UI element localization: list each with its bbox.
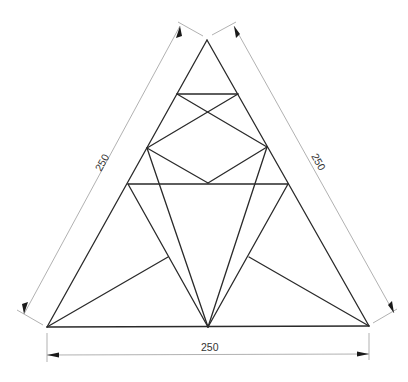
dimension-label: 250 <box>309 151 328 172</box>
dimension-bottom: 250 <box>47 333 369 362</box>
extension-line <box>212 22 236 35</box>
arrow-head-icon <box>388 301 394 313</box>
line-q-to-m <box>128 184 208 327</box>
perp-right <box>249 257 369 326</box>
extension-line <box>17 310 43 325</box>
dimension-right: 250 <box>212 22 397 323</box>
triangle-drawing: 250 250 250 <box>0 0 408 382</box>
dimension-left: 250 <box>17 22 203 325</box>
interior-lines <box>47 94 369 327</box>
diamond-right-lower <box>208 147 267 183</box>
extension-line <box>178 22 203 36</box>
arrow-head-icon <box>47 353 59 358</box>
side-right <box>207 40 369 326</box>
arrow-head-icon <box>357 352 369 357</box>
perp-left <box>47 257 168 327</box>
cross-line-t2-p <box>147 94 238 148</box>
arrow-head-icon <box>234 26 240 38</box>
line-p-to-m <box>147 148 208 327</box>
dimension-line <box>234 26 394 313</box>
dimension-label: 250 <box>92 152 111 173</box>
dimension-line <box>47 354 369 355</box>
diamond-left-lower <box>147 148 208 183</box>
cross-line-t1-r <box>177 94 267 147</box>
dimension-label: 250 <box>201 341 219 353</box>
